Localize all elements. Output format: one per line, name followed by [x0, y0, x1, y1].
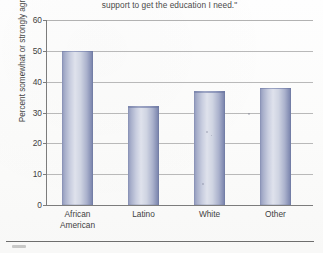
plot-area [47, 20, 313, 205]
bar-top-edge [62, 51, 93, 53]
x-tick-label-line: Other [231, 209, 321, 220]
x-axis-line [46, 205, 313, 206]
figure-page: support to get the education I need." Pe… [0, 0, 323, 253]
bar [194, 91, 225, 205]
y-tick-label: 20 [12, 139, 42, 147]
bar-top-edge [128, 106, 159, 108]
bar [260, 88, 291, 205]
x-tick-label: Other [231, 209, 321, 220]
scan-speckle [206, 131, 208, 133]
bottom-rule [6, 241, 314, 242]
bar-top-edge [194, 91, 225, 93]
figure-title: support to get the education I need." [0, 0, 323, 10]
y-tick-label: 10 [12, 170, 42, 178]
bar-top-edge [260, 88, 291, 90]
bar [62, 51, 93, 205]
scan-speckle [248, 113, 250, 115]
y-tick-label: 50 [12, 47, 42, 55]
bar [128, 106, 159, 205]
y-tick-mark [43, 205, 47, 206]
x-tick-label-line: American [33, 220, 123, 231]
gridline [47, 20, 313, 21]
scan-artifact [12, 245, 26, 248]
y-tick-label: 40 [12, 78, 42, 86]
y-tick-label: 30 [12, 109, 42, 117]
y-tick-label: 60 [12, 16, 42, 24]
